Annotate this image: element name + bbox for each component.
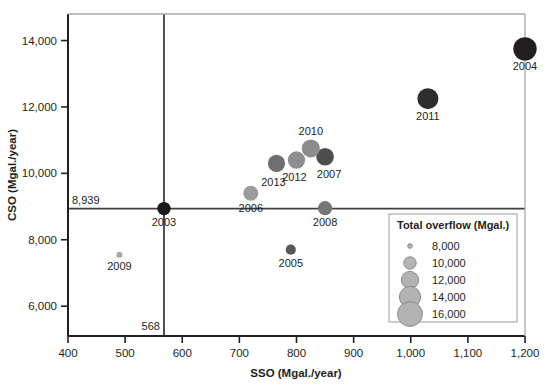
y-tick-label: 8,000	[28, 234, 57, 246]
data-point	[243, 186, 258, 201]
data-point-label: 2013	[261, 176, 285, 188]
data-point-label: 2003	[152, 216, 176, 228]
data-point-label: 2011	[416, 110, 440, 122]
y-tick-label: 12,000	[22, 101, 57, 113]
x-tick-label: 500	[116, 347, 135, 359]
legend-entry-label: 8,000	[432, 240, 460, 252]
x-tick-label: 900	[344, 347, 363, 359]
legend-title: Total overflow (Mgal.)	[397, 219, 510, 231]
horizontal-reference-label: 8,939	[72, 194, 100, 206]
x-axis-title: SSO (Mgal./year)	[250, 367, 342, 379]
x-tick-label: 700	[230, 347, 249, 359]
x-tick-label: 400	[58, 347, 77, 359]
legend-bubble	[408, 244, 413, 249]
size-legend: Total overflow (Mgal.) 8,00010,00012,000…	[389, 214, 517, 326]
data-point	[286, 245, 296, 255]
data-point	[268, 155, 285, 172]
legend-bubble	[398, 302, 423, 327]
data-point-label: 2006	[239, 202, 263, 214]
data-point-label: 2012	[282, 171, 306, 183]
chart-canvas: 6,0008,00010,00012,00014,000 40050060070…	[0, 0, 544, 385]
vertical-reference-label: 568	[142, 320, 160, 332]
legend-entry-label: 14,000	[432, 291, 466, 303]
data-point-label: 2010	[299, 125, 323, 137]
y-tick-label: 6,000	[28, 300, 57, 312]
legend-entry-label: 10,000	[432, 257, 466, 269]
data-point	[302, 139, 320, 157]
y-tick-label: 14,000	[22, 35, 57, 47]
x-tick-label: 600	[173, 347, 192, 359]
data-point-label: 2008	[313, 216, 337, 228]
legend-entry-label: 16,000	[432, 308, 466, 320]
data-point	[417, 88, 438, 109]
data-point-label: 2004	[513, 60, 537, 72]
legend-entry-label: 12,000	[432, 274, 466, 286]
x-tick-label: 1,200	[511, 347, 540, 359]
x-tick-label: 1,000	[396, 347, 425, 359]
data-point-label: 2005	[279, 257, 303, 269]
data-point	[157, 202, 170, 215]
data-point-label: 2007	[317, 168, 341, 180]
data-point	[288, 151, 305, 168]
y-tick-label: 10,000	[22, 167, 57, 179]
x-axis-tick-labels: 4005006007008009001,0001,1001,200	[58, 347, 539, 359]
x-tick-label: 800	[287, 347, 306, 359]
data-point-label: 2009	[107, 260, 131, 272]
scatter-chart: 6,0008,00010,00012,00014,000 40050060070…	[0, 0, 544, 385]
data-point	[318, 201, 332, 215]
legend-bubble	[404, 257, 416, 269]
x-tick-label: 1,100	[453, 347, 482, 359]
data-point	[116, 252, 122, 258]
y-axis-title: CSO (Mgal./year)	[6, 129, 18, 221]
data-point	[513, 37, 536, 60]
